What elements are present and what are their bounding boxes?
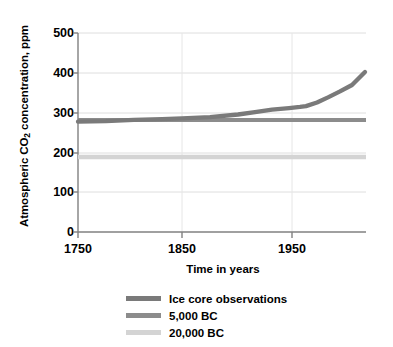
x-axis-title: Time in years — [78, 263, 368, 275]
legend-label-20000bc: 20,000 BC — [169, 327, 224, 339]
legend-item-ice-core-observations: Ice core observations — [126, 290, 376, 307]
legend-swatch-icon-ice-core — [126, 296, 161, 301]
legend-swatch-icon-20000bc — [126, 330, 161, 335]
gridlines — [78, 33, 366, 192]
series-line-ice-core-observations — [78, 72, 365, 122]
legend-item-20000bc: 20,000 BC — [126, 324, 376, 341]
legend-label-5000bc: 5,000 BC — [169, 310, 218, 322]
x-tick-1850: 1850 — [152, 242, 212, 256]
co2-concentration-chart: Atmospheric CO2 concentration, ppm 500 4… — [0, 0, 393, 347]
legend-item-5000bc: 5,000 BC — [126, 307, 376, 324]
x-axis-ticks — [78, 232, 292, 238]
x-tick-1950: 1950 — [262, 242, 322, 256]
legend-label-ice-core: Ice core observations — [169, 293, 287, 305]
x-tick-1750: 1750 — [48, 242, 108, 256]
legend-swatch-icon-5000bc — [126, 313, 161, 318]
y-axis-ticks — [73, 33, 78, 232]
chart-legend: Ice core observations 5,000 BC 20,000 BC — [126, 290, 376, 341]
vertical-gridlines — [182, 33, 292, 232]
